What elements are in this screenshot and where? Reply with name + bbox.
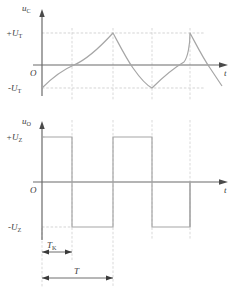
dimension-annotations: TK T <box>42 240 113 280</box>
half-period-arrow-left <box>42 250 49 255</box>
capacitor-origin-label: O <box>30 68 37 78</box>
capacitor-voltage-graph: uC t O +UT -UT <box>6 3 228 100</box>
output-y-axis-arrow <box>39 121 44 129</box>
period-arrow-left <box>42 276 49 281</box>
period-arrow-right <box>106 276 113 281</box>
output-t-axis-label: t <box>224 185 227 195</box>
capacitor-y-axis-label: uC <box>22 3 31 14</box>
half-period-label: TK <box>47 240 57 251</box>
waveform-figure: uC t O +UT -UT uO t <box>0 0 241 297</box>
upper-threshold-label: +UT <box>6 28 23 39</box>
capacitor-t-axis-label: t <box>224 68 227 78</box>
period-label: T <box>74 266 80 276</box>
output-voltage-graph: uO t O +UZ -UZ <box>6 116 228 287</box>
upper-level-label: +UZ <box>6 132 23 143</box>
lower-threshold-label: -UT <box>8 83 22 94</box>
capacitor-y-axis-arrow <box>39 9 44 17</box>
output-y-axis-label: uO <box>22 116 32 127</box>
output-origin-label: O <box>30 185 37 195</box>
half-period-arrow-right <box>65 250 72 255</box>
output-t-axis-arrow <box>219 179 228 184</box>
lower-level-label: -UZ <box>8 222 22 233</box>
capacitor-t-axis-arrow <box>219 62 228 67</box>
capacitor-voltage-curve <box>42 33 222 88</box>
